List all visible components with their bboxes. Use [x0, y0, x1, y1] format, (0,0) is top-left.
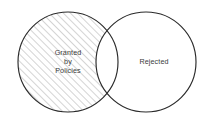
rejected-label-line-1: Rejected — [139, 57, 168, 66]
venn-diagram-canvas: Granted by Policies Rejected — [0, 0, 212, 123]
granted-by-policies-label-line-1: Granted — [55, 48, 82, 57]
granted-by-policies-label-line-2: by — [64, 57, 72, 66]
rejected-label: Rejected — [139, 57, 168, 66]
granted-by-policies-label-line-3: Policies — [55, 66, 81, 75]
venn-diagram-figure: Granted by Policies Rejected — [0, 0, 212, 123]
